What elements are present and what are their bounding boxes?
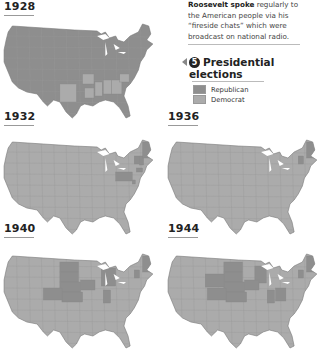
year-underline — [4, 125, 34, 126]
year-underline — [4, 15, 34, 16]
state-vt — [134, 156, 139, 164]
state-ne — [60, 282, 81, 292]
state-nd — [60, 262, 79, 272]
state-ks — [62, 292, 83, 302]
state-ms — [95, 82, 102, 96]
state-ne — [224, 282, 245, 292]
state-sd — [224, 272, 243, 282]
state-ar — [83, 74, 94, 84]
map-1944 — [166, 252, 320, 350]
state-sc — [120, 74, 129, 82]
state-border — [153, 22, 155, 120]
state-border — [153, 252, 155, 350]
state-ia — [245, 280, 259, 290]
divider — [192, 81, 264, 82]
state-tx-se — [60, 84, 77, 102]
state-nd — [224, 262, 243, 272]
caption-bold: Roosevelt spoke — [188, 0, 254, 9]
year-label-1932: 1932 — [4, 110, 35, 123]
legend-label: Democrat — [211, 96, 245, 104]
state-in — [103, 290, 110, 303]
year-underline — [4, 237, 34, 238]
year-label-1940: 1940 — [4, 222, 35, 235]
state-border — [2, 343, 157, 344]
caption: Roosevelt spoke regularly to the America… — [188, 0, 310, 42]
state-in — [267, 290, 274, 303]
us-outline — [4, 140, 153, 234]
republican-swatch — [193, 85, 206, 94]
state-pa — [116, 172, 133, 181]
state-border — [153, 138, 155, 236]
state-mi — [101, 268, 115, 286]
arrow-left-icon — [182, 58, 187, 66]
year-label-1936: 1936 — [168, 110, 199, 123]
state-sd — [60, 272, 79, 282]
state-wy — [205, 274, 224, 287]
state-oh — [276, 288, 286, 301]
state-border — [317, 252, 319, 350]
number-badge: 5 — [189, 57, 200, 68]
year-underline — [168, 125, 198, 126]
divider — [188, 44, 300, 45]
state-ks — [226, 292, 247, 302]
map-1940 — [2, 252, 157, 350]
state-al — [103, 80, 111, 94]
state-ia — [81, 280, 95, 290]
state-co — [207, 288, 226, 300]
legend-item-democrat: Democrat — [193, 95, 245, 104]
us-outline — [168, 140, 317, 234]
state-vt — [134, 270, 139, 278]
year-label-1944: 1944 — [168, 222, 199, 235]
state-de — [132, 180, 135, 184]
legend-title: 5Presidential elections — [189, 56, 274, 80]
state-co — [43, 288, 62, 300]
year-underline — [168, 237, 198, 238]
legend-title-line2: elections — [189, 68, 243, 80]
state-ct — [136, 168, 142, 172]
us-outline — [4, 24, 153, 118]
year-label-1928: 1928 — [4, 0, 35, 13]
democrat-swatch — [193, 95, 206, 104]
state-vt — [298, 156, 303, 164]
legend-label: Republican — [211, 86, 249, 94]
map-1928 — [2, 22, 157, 120]
state-border — [166, 343, 320, 344]
state-border — [317, 138, 319, 236]
state-la — [85, 88, 94, 98]
legend-title-line1: Presidential — [203, 56, 274, 68]
legend-item-republican: Republican — [193, 85, 249, 94]
state-vt — [298, 270, 303, 278]
